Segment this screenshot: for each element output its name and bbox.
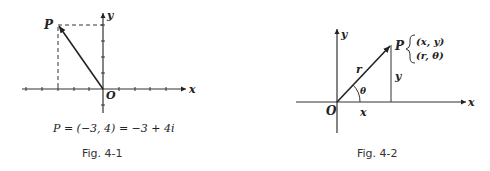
point-p-label: P <box>43 18 54 32</box>
point-p-label: P <box>394 39 405 53</box>
vector-op <box>59 26 103 89</box>
y-axis-label: y <box>340 28 349 41</box>
origin-label: O <box>326 104 337 118</box>
polar-coords: (r, θ) <box>416 50 444 62</box>
x-length-label: x <box>359 106 367 119</box>
origin-label: O <box>106 89 116 102</box>
caption-fig-4-1: Fig. 4-1 <box>82 147 123 160</box>
diagrams-canvas: P y x O P = (−3, 4) = −3 + 4i Fig. 4-1 y… <box>0 0 490 171</box>
figure-4-2: y x O x y r θ P (x, y) (r, θ) Fig. 4-2 <box>296 28 475 160</box>
x-axis-label: x <box>188 83 196 96</box>
y-length-label: y <box>394 70 403 83</box>
radius-label: r <box>356 63 363 76</box>
figure-4-1: P y x O P = (−3, 4) = −3 + 4i Fig. 4-1 <box>22 9 196 160</box>
angle-label: θ <box>360 86 366 96</box>
angle-arc <box>353 85 360 102</box>
y-axis-label: y <box>106 9 115 22</box>
equation: P = (−3, 4) = −3 + 4i <box>52 122 175 135</box>
x-axis-label: x <box>467 96 475 109</box>
caption-fig-4-2: Fig. 4-2 <box>357 147 398 160</box>
cartesian-coords: (x, y) <box>416 36 444 48</box>
brace <box>406 35 415 63</box>
